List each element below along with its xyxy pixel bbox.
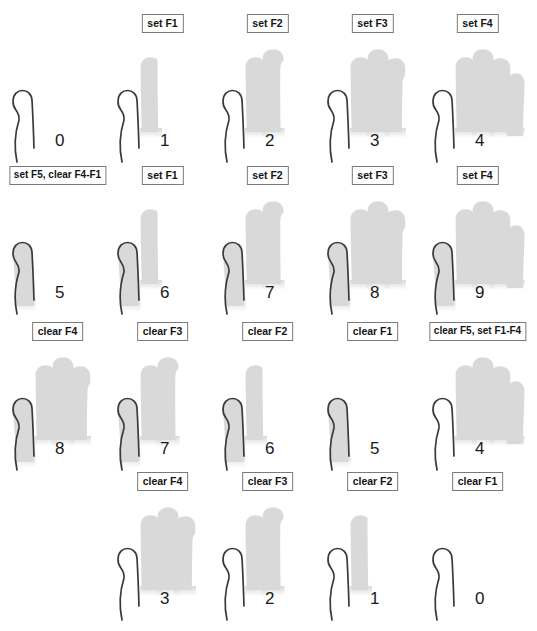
thumb-finger[interactable]: [433, 243, 454, 306]
thumb-finger[interactable]: [223, 243, 244, 306]
operation-label: clear F4: [32, 322, 84, 341]
hand-cell-r2-c3: clear F15: [320, 322, 425, 472]
hand-cell-r2-c0: clear F48: [5, 322, 110, 472]
operation-label: clear F4: [137, 472, 189, 491]
thumb-palm-shade: [15, 298, 36, 312]
count-value: 6: [265, 440, 274, 457]
hand-cell-r3-c1: clear F43: [110, 472, 215, 622]
pinky-finger[interactable]: [507, 73, 525, 136]
pinky-finger: [402, 381, 420, 444]
hand-cell-r1-c0: set F5, clear F4-F15: [5, 166, 110, 316]
pinky-finger: [192, 381, 210, 444]
operation-label: set F5, clear F4-F1: [9, 166, 106, 185]
count-value: 6: [160, 284, 169, 301]
operation-label: set F2: [246, 166, 288, 185]
thumb-finger[interactable]: [118, 243, 139, 306]
ring-palm-shade: [69, 436, 91, 446]
pinky-finger: [297, 381, 315, 444]
count-value: 1: [370, 590, 379, 607]
hand-cell-r0-c0: 0: [5, 14, 110, 164]
hand-cell-r3-c3: clear F21: [320, 472, 425, 622]
operation-label: clear F2: [242, 322, 294, 341]
thumb-finger: [433, 549, 454, 612]
thumb-finger: [118, 91, 139, 154]
hand-cell-r3-c2: clear F32: [215, 472, 320, 622]
hand-cell-r1-c3: set F38: [320, 166, 425, 316]
thumb-palm-shade: [225, 298, 246, 312]
pinky-finger: [507, 531, 525, 594]
hand-cell-r0-c1: set F11: [110, 14, 215, 164]
thumb-finger: [223, 91, 244, 154]
pinky-palm-shade: [506, 128, 525, 138]
operation-label: set F1: [141, 14, 183, 33]
pinky-finger: [87, 225, 105, 288]
pinky-finger: [192, 225, 210, 288]
count-value: 5: [370, 440, 379, 457]
pinky-finger: [297, 225, 315, 288]
index-palm-shade: [245, 436, 267, 446]
count-value: 7: [160, 440, 169, 457]
hand-cell-r3-c4: clear F10: [425, 472, 530, 622]
thumb-finger: [328, 91, 349, 154]
hand-cell-r2-c1: clear F37: [110, 322, 215, 472]
pinky-finger[interactable]: [507, 381, 525, 444]
pinky-finger: [87, 381, 105, 444]
ring-palm-shade: [384, 128, 406, 138]
figure-canvas: 0set F11set F22set F33set F44set F5, cle…: [0, 0, 537, 631]
hand-cell-r1-c1: set F16: [110, 166, 215, 316]
count-value: 3: [370, 132, 379, 149]
hand-cell-r0-c3: set F33: [320, 14, 425, 164]
count-value: 0: [55, 132, 64, 149]
count-value: 9: [475, 284, 484, 301]
pinky-finger: [87, 73, 105, 136]
thumb-palm-shade: [120, 298, 141, 312]
thumb-finger: [433, 91, 454, 154]
index-palm-shade: [140, 128, 162, 138]
thumb-finger: [13, 91, 34, 154]
thumb-finger: [328, 549, 349, 612]
operation-label: set F1: [141, 166, 183, 185]
ring-palm-shade: [174, 586, 196, 596]
thumb-finger[interactable]: [328, 243, 349, 306]
count-value: 4: [475, 440, 484, 457]
pinky-finger: [402, 73, 420, 136]
count-value: 8: [55, 440, 64, 457]
operation-label: set F4: [456, 14, 498, 33]
pinky-finger: [297, 73, 315, 136]
operation-label: set F3: [351, 166, 393, 185]
count-value: 2: [265, 590, 274, 607]
thumb-finger[interactable]: [13, 399, 34, 462]
operation-label: set F4: [456, 166, 498, 185]
thumb-finger[interactable]: [118, 399, 139, 462]
hand-cell-r1-c2: set F27: [215, 166, 320, 316]
pinky-finger: [402, 225, 420, 288]
operation-label: clear F3: [242, 472, 294, 491]
hand-cell-r0-c2: set F22: [215, 14, 320, 164]
operation-label: clear F3: [137, 322, 189, 341]
operation-label: clear F5, set F1-F4: [429, 322, 526, 341]
thumb-finger: [433, 399, 454, 462]
operation-label: clear F1: [452, 472, 504, 491]
thumb-finger[interactable]: [328, 399, 349, 462]
thumb-palm-shade: [15, 454, 36, 468]
operation-label: clear F2: [347, 472, 399, 491]
thumb-finger[interactable]: [13, 243, 34, 306]
thumb-finger: [118, 549, 139, 612]
operation-label: set F3: [351, 14, 393, 33]
top-text-fragment: [0, 0, 537, 10]
count-value: 4: [475, 132, 484, 149]
count-value: 2: [265, 132, 274, 149]
thumb-palm-shade: [225, 454, 246, 468]
pinky-palm-shade: [506, 436, 525, 446]
thumb-finger[interactable]: [223, 399, 244, 462]
thumb-palm-shade: [120, 454, 141, 468]
hand-cell-r1-c4: set F49: [425, 166, 530, 316]
pinky-finger: [192, 531, 210, 594]
operation-label: clear F1: [347, 322, 399, 341]
hand-cell-r2-c2: clear F26: [215, 322, 320, 472]
count-value: 7: [265, 284, 274, 301]
count-value: 5: [55, 284, 64, 301]
hand-cell-r2-c4: clear F5, set F1-F44: [425, 322, 530, 472]
pinky-finger[interactable]: [507, 225, 525, 288]
pinky-palm-shade: [506, 280, 525, 290]
